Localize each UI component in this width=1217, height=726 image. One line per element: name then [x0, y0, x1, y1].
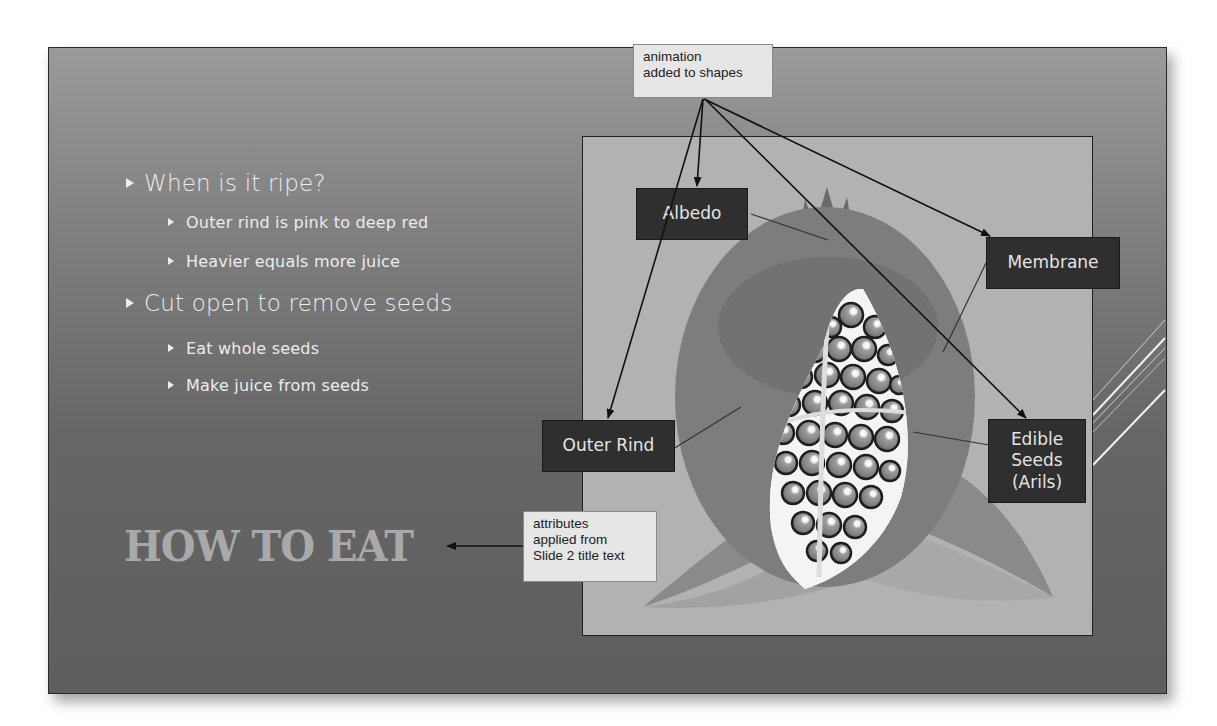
- bullet-arrow-icon: [168, 257, 174, 265]
- bullet-cut-open[interactable]: Cut open to remove seeds: [126, 290, 452, 316]
- bullet-arrow-icon: [126, 298, 134, 308]
- bullet-arrow-icon: [126, 178, 134, 188]
- label-membrane[interactable]: Membrane: [986, 237, 1120, 289]
- callout-animation: animation added to shapes: [633, 44, 773, 98]
- decorative-stripes: [1093, 320, 1167, 470]
- label-outer-rind[interactable]: Outer Rind: [542, 420, 675, 472]
- callout-attributes: attributes applied from Slide 2 title te…: [523, 511, 657, 582]
- bullet-make-juice[interactable]: Make juice from seeds: [168, 376, 369, 395]
- bullet-arrow-icon: [168, 381, 174, 389]
- bullet-outer-rind-color[interactable]: Outer rind is pink to deep red: [168, 213, 428, 232]
- slide-title[interactable]: HOW TO EAT: [124, 521, 413, 570]
- bullet-eat-whole[interactable]: Eat whole seeds: [168, 339, 319, 358]
- label-albedo[interactable]: Albedo: [636, 188, 748, 240]
- bullet-when-ripe[interactable]: When is it ripe?: [126, 170, 326, 196]
- label-edible-seeds[interactable]: Edible Seeds (Arils): [988, 419, 1086, 503]
- bullet-heavier-juice[interactable]: Heavier equals more juice: [168, 252, 400, 271]
- bullet-arrow-icon: [168, 218, 174, 226]
- bullet-arrow-icon: [168, 344, 174, 352]
